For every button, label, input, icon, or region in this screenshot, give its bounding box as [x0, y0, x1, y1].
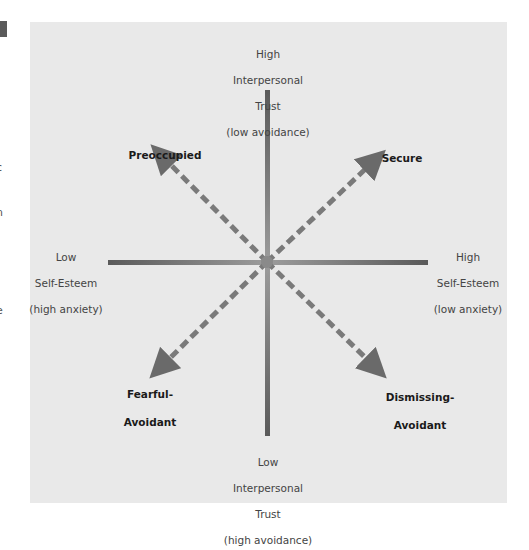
axis-label-line: Trust	[218, 508, 318, 521]
style-label-line: Dismissing-	[370, 390, 470, 404]
axis-label-left: Low Self-Esteem (high anxiety)	[25, 238, 107, 329]
style-label-secure: Secure	[372, 137, 432, 179]
axis-label-bottom: Low Interpersonal Trust (high avoidance)	[218, 443, 318, 550]
axis-label-line: (high anxiety)	[25, 303, 107, 316]
style-label-fearful-avoidant: Fearful- Avoidant	[110, 373, 190, 443]
axis-label-line: (high avoidance)	[218, 534, 318, 547]
style-label-dismissing-avoidant: Dismissing- Avoidant	[370, 376, 470, 446]
style-label-line: Fearful-	[110, 387, 190, 401]
axis-label-line: Interpersonal	[218, 482, 318, 495]
axis-label-line: Self-Esteem	[430, 277, 506, 290]
style-label-line: Preoccupied	[110, 148, 220, 162]
axis-label-line: Interpersonal	[218, 74, 318, 87]
axis-label-line: (low avoidance)	[218, 126, 318, 139]
style-label-line: Avoidant	[370, 418, 470, 432]
style-label-line: Avoidant	[110, 415, 190, 429]
axis-label-line: (low anxiety)	[430, 303, 506, 316]
arrow-secure	[267, 160, 375, 262]
arrow-fearful-avoidant	[160, 262, 267, 368]
axis-label-right: High Self-Esteem (low anxiety)	[430, 238, 506, 329]
axis-label-line: Self-Esteem	[25, 277, 107, 290]
arrow-dismissing-avoidant	[267, 262, 376, 368]
axis-label-line: High	[218, 48, 318, 61]
style-label-line: Secure	[372, 151, 432, 165]
axis-label-line: Low	[25, 251, 107, 264]
axis-label-top: High Interpersonal Trust (low avoidance)	[218, 35, 318, 152]
axis-label-line: Low	[218, 456, 318, 469]
axis-label-line: High	[430, 251, 506, 264]
axis-label-line: Trust	[218, 100, 318, 113]
origin-point	[261, 256, 273, 268]
style-label-preoccupied: Preoccupied	[110, 134, 220, 176]
